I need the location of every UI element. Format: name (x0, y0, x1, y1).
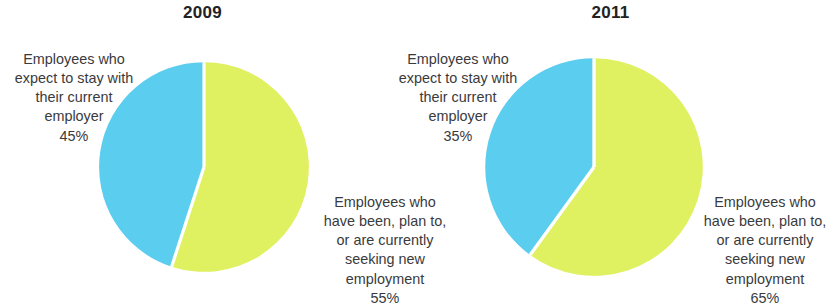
chart-panel-2011: 2011 Employees who expect to stay with t… (407, 0, 814, 307)
chart-title-2011: 2011 (407, 4, 814, 23)
slice-label-2009-stay: Employees who expect to stay with their … (2, 50, 146, 146)
chart-title-2009: 2009 (0, 4, 406, 23)
slice-label-2011-stay: Employees who expect to stay with their … (386, 50, 530, 146)
chart-panel-2009: 2009 Employees who expect to stay with t… (0, 0, 407, 307)
slice-label-2011-seeking: Employees who have been, plan to, or are… (697, 193, 830, 307)
